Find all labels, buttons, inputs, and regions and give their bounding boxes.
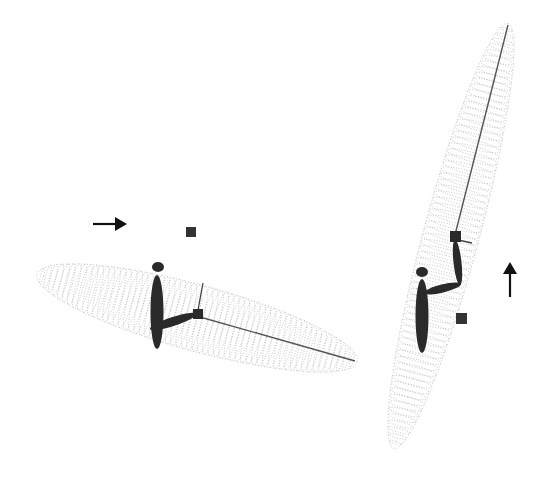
arrow-up-icon	[503, 262, 517, 297]
arm-workspace-diagram	[0, 0, 556, 479]
panel-right	[367, 16, 535, 456]
body-segment	[416, 279, 429, 353]
panel-left	[28, 217, 366, 394]
body-segment	[151, 275, 164, 349]
arrow-head	[115, 217, 127, 231]
forearm-segment	[451, 240, 464, 286]
target-square-left	[186, 227, 196, 237]
arm-model-right	[416, 25, 509, 353]
target-square	[456, 313, 467, 324]
link-line	[455, 25, 508, 235]
arrow-head	[503, 262, 517, 274]
arrow-right-icon	[93, 217, 127, 231]
end-effector-cube	[193, 309, 203, 319]
target-square	[186, 227, 196, 237]
target-square-right	[456, 313, 467, 324]
end-effector-cube	[450, 231, 461, 242]
head-sphere	[152, 262, 164, 272]
figure-canvas	[0, 0, 556, 479]
upper-arm-segment	[423, 280, 462, 297]
head-sphere	[416, 267, 428, 277]
